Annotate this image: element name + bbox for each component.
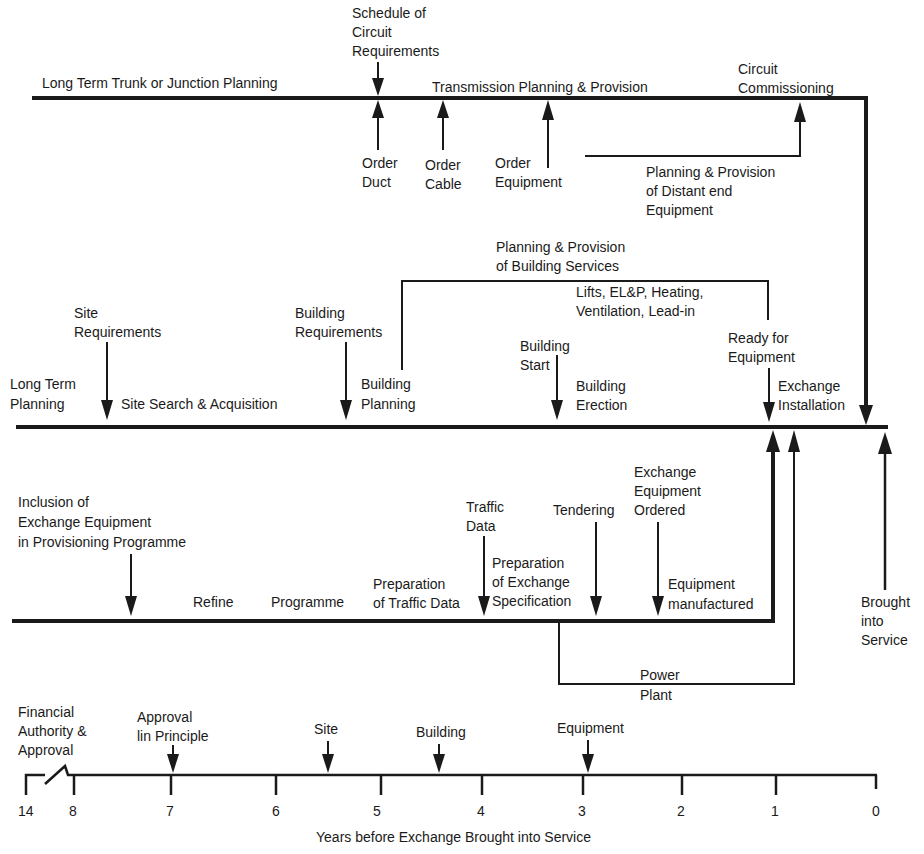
inclusion-line-1: Inclusion of <box>18 494 89 510</box>
building-services: Planning & Provision of Building Service… <box>402 239 768 370</box>
schedule-label-line-3: Requirements <box>352 43 439 59</box>
site-requirements-line-1: Site <box>74 305 98 321</box>
equipment-milestone: Equipment <box>557 720 624 773</box>
schedule-label-line-2: Circuit <box>352 24 392 40</box>
equipment-ordered-line-2: Equipment <box>634 483 701 499</box>
circuit-commissioning-line-2: Commissioning <box>738 80 834 96</box>
years-timeline-axis: 14 8 7 6 5 4 3 2 1 0 Years before Exchan… <box>18 704 880 845</box>
arrow-up-icon <box>788 430 800 452</box>
exchange-installation-line-2: Installation <box>778 397 845 413</box>
arrow-down-icon <box>340 400 352 420</box>
services-detail-line-1: Lifts, EL&P, Heating, <box>576 284 703 300</box>
arrow-up-icon <box>794 102 806 122</box>
arrow-up-icon <box>372 100 384 118</box>
tick-label-8: 8 <box>69 803 77 819</box>
schedule-circuit-requirements: Schedule of Circuit Requirements <box>352 5 439 96</box>
arrow-down-icon <box>322 754 334 773</box>
power-plant-line-2: Plant <box>640 687 672 703</box>
building-erection-line-2: Erection <box>576 397 627 413</box>
exchange-installation-line-1: Exchange <box>778 378 840 394</box>
trunk-down-arrow-icon <box>859 405 873 425</box>
distant-end-line-3: Equipment <box>646 202 713 218</box>
equipment-track: Inclusion of Exchange Equipment in Provi… <box>12 430 910 703</box>
trunk-planning-label: Long Term Trunk or Junction Planning <box>42 75 278 91</box>
site-label: Site <box>314 721 338 737</box>
financial-line-2: Authority & <box>18 723 87 739</box>
prep-spec-line-1: Preparation <box>492 555 564 571</box>
building-erection-line-1: Building <box>576 378 626 394</box>
services-detail-line-2: Ventilation, Lead-in <box>576 303 695 319</box>
arrow-up-icon <box>542 100 554 120</box>
tick-label-6: 6 <box>272 803 280 819</box>
arrow-down-icon <box>478 596 490 616</box>
tick-label-3: 3 <box>578 803 586 819</box>
order-duct: Order Duct <box>362 100 398 190</box>
tick-label-2: 2 <box>677 803 685 819</box>
exchange-provisioning-timeline-diagram: Long Term Trunk or Junction Planning Tra… <box>0 0 924 854</box>
axis-tick-labels: 14 8 7 6 5 4 3 2 1 0 <box>18 803 880 819</box>
manufactured-line-1: Equipment <box>668 576 735 592</box>
circuit-commissioning: Circuit Commissioning <box>738 61 834 96</box>
tick-label-14: 14 <box>18 803 34 819</box>
approval-line-1: Approval <box>137 709 192 725</box>
equipment-ordered-line-3: Ordered <box>634 502 685 518</box>
manufactured-line-2: manufactured <box>668 596 754 612</box>
prep-spec-line-3: Specification <box>492 593 571 609</box>
order-equipment-line-2: Equipment <box>495 174 562 190</box>
site-milestone: Site <box>314 721 338 773</box>
order-equipment: Order Equipment <box>495 100 562 190</box>
circuit-commissioning-line-1: Circuit <box>738 61 778 77</box>
equipment-ordered-line-1: Exchange <box>634 464 696 480</box>
site-search-label: Site Search & Acquisition <box>121 396 277 412</box>
equipment-label: Equipment <box>557 720 624 736</box>
ready-for-equipment-line-1: Ready for <box>728 330 789 346</box>
building-services-line-2: of Building Services <box>496 258 619 274</box>
prep-spec-line-2: of Exchange <box>492 574 570 590</box>
transmission-label: Transmission Planning & Provision <box>432 79 648 95</box>
arrow-up-icon <box>437 100 449 118</box>
prep-traffic-line-2: of Traffic Data <box>373 595 460 611</box>
tick-label-1: 1 <box>771 803 779 819</box>
order-cable-line-2: Cable <box>425 176 462 192</box>
refine-label: Refine <box>193 594 234 610</box>
inclusion-in-programme: Inclusion of Exchange Equipment in Provi… <box>18 494 186 616</box>
order-duct-line-2: Duct <box>362 174 391 190</box>
distant-end-line-1: Planning & Provision <box>646 164 775 180</box>
arrow-down-icon <box>551 400 563 420</box>
tendering-label: Tendering <box>553 502 615 518</box>
arrow-down-icon <box>125 596 137 616</box>
long-term-planning-line-2: Planning <box>10 396 65 412</box>
exchange-equipment-ordered: Exchange Equipment Ordered <box>634 464 701 616</box>
tick-label-4: 4 <box>477 803 485 819</box>
schedule-label-line-1: Schedule of <box>352 5 426 21</box>
financial-authority: Financial Authority & Approval <box>18 704 87 758</box>
inclusion-line-3: in Provisioning Programme <box>18 534 186 550</box>
arrow-down-icon <box>582 754 594 773</box>
axis-ticks <box>74 775 776 795</box>
power-plant-line-1: Power <box>640 667 680 683</box>
building-start-line-2: Start <box>520 357 550 373</box>
brought-into-service: Brought into Service <box>861 432 910 648</box>
traffic-data-line-1: Traffic <box>466 499 504 515</box>
building-requirements-line-2: Requirements <box>295 324 382 340</box>
arrow-down-icon <box>590 596 602 616</box>
order-cable: Order Cable <box>425 100 462 192</box>
site-requirements-line-2: Requirements <box>74 324 161 340</box>
traffic-data-line-2: Data <box>466 518 496 534</box>
arrow-down-icon <box>167 754 179 773</box>
building-track: Planning & Provision of Building Service… <box>10 239 888 427</box>
order-equipment-line-1: Order <box>495 155 531 171</box>
order-duct-line-1: Order <box>362 155 398 171</box>
distant-end-line-2: of Distant end <box>646 183 732 199</box>
brought-line-2: into <box>861 613 884 629</box>
building-milestone: Building <box>416 724 466 773</box>
axis-title: Years before Exchange Brought into Servi… <box>316 829 591 845</box>
arrow-down-icon <box>372 78 384 96</box>
building-start-line-1: Building <box>520 338 570 354</box>
tick-label-0: 0 <box>872 803 880 819</box>
arrow-up-icon <box>878 432 892 454</box>
long-term-planning-line-1: Long Term <box>10 376 76 392</box>
inclusion-line-2: Exchange Equipment <box>18 514 151 530</box>
tick-label-5: 5 <box>373 803 381 819</box>
building-label: Building <box>416 724 466 740</box>
